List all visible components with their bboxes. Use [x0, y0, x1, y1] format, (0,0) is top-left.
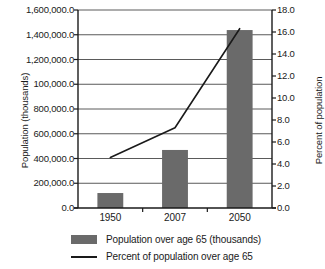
bar-series [97, 30, 252, 208]
legend-item-line: Percent of population over age 65 [0, 248, 325, 265]
bar [162, 150, 188, 208]
legend-label-line: Percent of population over age 65 [106, 251, 253, 262]
bar [227, 30, 253, 208]
x-axis-tick-label: 1950 [78, 212, 143, 226]
chart-container: Population (thousands) Percent of popula… [0, 0, 325, 269]
x-axis-tick-label: 2007 [143, 212, 208, 226]
legend-swatch-bar-icon [71, 235, 97, 244]
bar [97, 193, 123, 208]
x-axis-category-labels: 195020072050 [78, 212, 272, 226]
plot-area [0, 0, 325, 269]
legend-label-bar: Population over age 65 (thousands) [106, 234, 261, 245]
chart-legend: Population over age 65 (thousands) Perce… [0, 231, 325, 265]
legend-item-bar: Population over age 65 (thousands) [0, 231, 325, 248]
x-axis-tick-label: 2050 [207, 212, 272, 226]
legend-swatch-line-icon [71, 252, 97, 261]
line-series [110, 29, 239, 158]
